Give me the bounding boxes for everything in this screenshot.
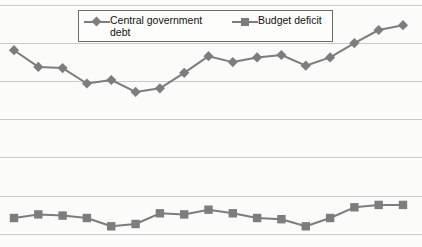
data-point-marker xyxy=(156,209,164,217)
data-point-marker xyxy=(58,211,66,219)
data-point-marker xyxy=(349,38,359,48)
legend-label-budget-deficit: Budget deficit xyxy=(258,14,322,26)
data-point-marker xyxy=(155,83,165,93)
data-point-marker xyxy=(106,75,116,85)
data-point-marker xyxy=(83,214,91,222)
data-series-group xyxy=(9,20,408,230)
data-point-marker xyxy=(276,50,286,60)
legend-entry-central-government-debt[interactable]: Central government debt xyxy=(84,14,218,38)
data-point-marker xyxy=(58,63,68,73)
data-point-marker xyxy=(253,214,261,222)
data-point-marker xyxy=(375,201,383,209)
data-point-marker xyxy=(82,78,92,88)
data-point-marker xyxy=(398,20,408,30)
data-point-marker xyxy=(180,210,188,218)
data-point-marker xyxy=(301,61,311,71)
data-point-marker xyxy=(350,203,358,211)
data-point-marker xyxy=(302,222,310,230)
chart-legend: Central government debt Budget deficit xyxy=(78,10,333,42)
data-point-marker xyxy=(204,206,212,214)
data-point-marker xyxy=(277,215,285,223)
legend-entry-budget-deficit[interactable]: Budget deficit xyxy=(232,14,322,28)
data-point-marker xyxy=(107,222,115,230)
data-point-marker xyxy=(228,57,238,67)
data-point-marker xyxy=(252,52,262,62)
data-point-marker xyxy=(131,87,141,97)
chart-container: Central government debt Budget deficit xyxy=(0,0,422,247)
square-marker-icon xyxy=(232,15,258,28)
diamond-marker-icon xyxy=(84,15,110,28)
data-point-marker xyxy=(34,210,42,218)
data-point-marker xyxy=(10,214,18,222)
data-point-marker xyxy=(399,201,407,209)
data-point-marker xyxy=(374,25,384,35)
legend-label-central-government-debt: Central government debt xyxy=(110,14,218,38)
data-point-marker xyxy=(229,209,237,217)
data-point-marker xyxy=(325,52,335,62)
data-point-marker xyxy=(131,220,139,228)
data-point-marker xyxy=(326,214,334,222)
